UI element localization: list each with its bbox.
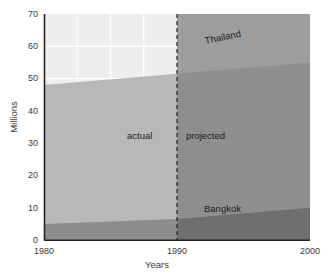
x-tick-label-2000: 2000 (290, 247, 330, 256)
y-tick-label-20: 20 (14, 171, 38, 180)
y-axis-title: Millions (9, 87, 19, 147)
y-tick-label-0: 0 (14, 236, 38, 245)
region-label-projected: projected (186, 131, 225, 141)
y-tick-label-60: 60 (14, 42, 38, 51)
region-label-actual: actual (127, 131, 152, 141)
series-label-bangkok: Bangkok (204, 204, 241, 214)
x-tick-label-1990: 1990 (157, 247, 197, 256)
area-chart: 70 60 50 40 30 20 10 0 1980 1990 2000 Mi… (0, 0, 330, 274)
x-axis-title: Years (127, 260, 187, 270)
chart-plot-area (0, 0, 330, 274)
y-tick-label-70: 70 (14, 10, 38, 19)
y-tick-label-10: 10 (14, 204, 38, 213)
y-tick-label-50: 50 (14, 74, 38, 83)
x-tick-label-1980: 1980 (24, 247, 64, 256)
